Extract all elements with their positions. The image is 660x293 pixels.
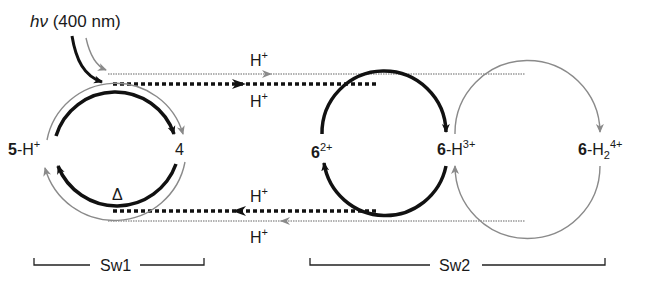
- compound-number: 6: [578, 141, 587, 158]
- species-charge: 2+: [320, 141, 333, 153]
- proton-label-bottom-gray: H+: [250, 230, 268, 246]
- sw2-gray-arc-bottom: [455, 166, 600, 238]
- species-suffix: -H: [17, 141, 34, 158]
- sw2-gray-arc-top: [455, 61, 600, 134]
- compound-number: 6: [311, 144, 320, 161]
- proton-h: H: [250, 52, 262, 69]
- species-5-H: 5-H+: [8, 142, 40, 158]
- sw2-label: Sw2: [439, 258, 470, 274]
- species-suffix: -H: [446, 141, 463, 158]
- proton-charge: +: [262, 90, 268, 102]
- sw2-black-arc-bottom: [324, 163, 446, 216]
- proton-label-top-gray: H+: [250, 53, 268, 69]
- species-charge: 3+: [463, 138, 476, 150]
- species-6: 62+: [311, 145, 332, 161]
- wavelength: (400 nm): [53, 12, 121, 31]
- hv-symbol: hν: [30, 12, 48, 31]
- compound-number: 5: [8, 141, 17, 158]
- species-4: 4: [175, 142, 184, 158]
- proton-h: H: [250, 188, 262, 205]
- proton-h: H: [250, 93, 262, 110]
- species-6-H: 6-H3+: [437, 142, 475, 158]
- proton-label-top-black: H+: [250, 94, 268, 110]
- bottom-black-arrowhead: [232, 206, 246, 216]
- species-subscript: 2: [604, 149, 610, 161]
- compound-number: 6: [437, 141, 446, 158]
- proton-charge: +: [262, 226, 268, 238]
- sw1-label: Sw1: [100, 258, 131, 274]
- heat-delta-label: Δ: [112, 187, 123, 203]
- species-charge: +: [34, 138, 40, 150]
- species-suffix: -H: [587, 141, 604, 158]
- species-6-H2: 6-H24+: [578, 142, 622, 158]
- proton-h: H: [250, 229, 262, 246]
- proton-charge: +: [262, 185, 268, 197]
- light-arrow-gray: [86, 38, 106, 70]
- proton-label-bottom-black: H+: [250, 189, 268, 205]
- species-charge: 4+: [610, 138, 623, 150]
- sw2-black-arc-top: [322, 71, 446, 134]
- proton-charge: +: [262, 49, 268, 61]
- sw1-black-arc-top: [56, 92, 174, 136]
- light-label: hν (400 nm): [30, 13, 121, 30]
- compound-number: 4: [175, 141, 184, 158]
